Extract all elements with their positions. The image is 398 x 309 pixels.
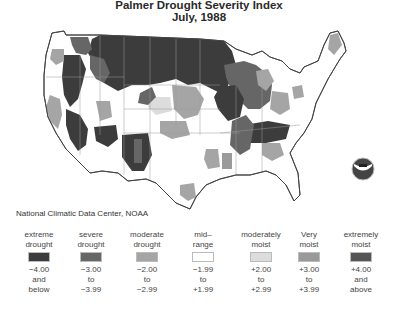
legend-item-extremely-moist: extremelymoist +4.00andabove — [332, 230, 390, 295]
legend-label: drought — [10, 240, 68, 250]
legend-range: and — [332, 275, 390, 285]
legend-range: −1.99 — [174, 265, 232, 275]
legend-swatch — [28, 252, 50, 262]
legend-range: to — [118, 275, 176, 285]
legend-label: moist — [280, 240, 338, 250]
map-title: Palmer Drought Severity Index — [0, 0, 398, 11]
legend-label: Very — [280, 230, 338, 240]
legend-label: drought — [118, 240, 176, 250]
region-severe-drought-newmexico — [134, 139, 142, 163]
legend-range: +1.99 — [174, 285, 232, 295]
legend-range: to — [174, 275, 232, 285]
legend-range: to — [280, 275, 338, 285]
legend-item-moderate-drought: moderatedrought −2.00to−2.99 — [118, 230, 176, 295]
legend-label: moist — [332, 240, 390, 250]
legend-item-mid-range: mid–range −1.99to+1.99 — [174, 230, 232, 295]
legend-label: range — [174, 240, 232, 250]
region-moderate-drought-pennsylvania — [292, 85, 304, 99]
legend-label: drought — [62, 240, 120, 250]
noaa-logo — [351, 157, 375, 181]
legend-swatch — [136, 252, 158, 262]
legend-range: −2.00 — [118, 265, 176, 275]
legend-label: mid– — [174, 230, 232, 240]
legend-range: +4.00 — [332, 265, 390, 275]
legend-label: moderate — [118, 230, 176, 240]
legend-swatch — [80, 252, 102, 262]
us-drought-map — [0, 25, 398, 215]
legend-item-very-moist: Verymoist +3.00to+3.99 — [280, 230, 338, 295]
legend-swatch — [250, 252, 272, 262]
source-credit: National Climatic Data Center, NOAA — [16, 209, 148, 218]
legend: extremedrought −4.00andbelow severedroug… — [10, 230, 398, 308]
legend-range: +3.00 — [280, 265, 338, 275]
legend-range: below — [10, 285, 68, 295]
legend-range: above — [332, 285, 390, 295]
legend-range: to — [62, 275, 120, 285]
legend-swatch — [192, 252, 214, 262]
legend-range: −3.00 — [62, 265, 120, 275]
legend-range: −4.00 — [10, 265, 68, 275]
legend-swatch — [298, 252, 320, 262]
legend-label: severe — [62, 230, 120, 240]
legend-range: +3.99 — [280, 285, 338, 295]
legend-item-severe-drought: severedrought −3.00to−3.99 — [62, 230, 120, 295]
legend-label: extreme — [10, 230, 68, 240]
map-subtitle-date: July, 1988 — [0, 11, 398, 23]
legend-range: and — [10, 275, 68, 285]
legend-range: −2.99 — [118, 285, 176, 295]
region-moist-louisiana — [222, 153, 232, 169]
legend-swatch — [350, 252, 372, 262]
legend-label: extremely — [332, 230, 390, 240]
legend-range: −3.99 — [62, 285, 120, 295]
legend-item-extreme-drought: extremedrought −4.00andbelow — [10, 230, 68, 295]
